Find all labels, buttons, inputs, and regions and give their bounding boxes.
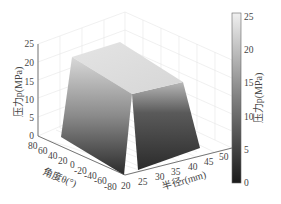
z-tick: 20 bbox=[25, 58, 35, 68]
theta-tick: -80 bbox=[104, 182, 117, 192]
r-tick: 25 bbox=[138, 177, 148, 187]
theta-tick: 40 bbox=[48, 151, 58, 161]
colorbar-tick: 25 bbox=[244, 12, 254, 22]
colorbar-tick: 20 bbox=[244, 45, 254, 55]
surface-plot: 0 5 10 15 20 25 压力p(MPa) 80 60 40 20 0 -… bbox=[0, 0, 281, 204]
theta-tick: 60 bbox=[38, 146, 48, 156]
r-tick: 50 bbox=[219, 152, 229, 162]
colorbar-tick: 5 bbox=[244, 145, 249, 155]
z-tick: 5 bbox=[29, 113, 34, 123]
theta-tick: 20 bbox=[58, 156, 68, 166]
chart-root: 0 5 10 15 20 25 压力p(MPa) 80 60 40 20 0 -… bbox=[0, 0, 281, 204]
z-axis-label: 压力p(MPa) bbox=[12, 67, 25, 118]
colorbar: 25 20 15 10 5 0 压力p(MPa) bbox=[232, 12, 265, 188]
r-axis-label: 半径r(mm) bbox=[160, 168, 207, 193]
theta-tick: 80 bbox=[28, 141, 38, 151]
z-tick: 15 bbox=[25, 77, 35, 87]
colorbar-tick: 0 bbox=[244, 178, 249, 188]
r-tick: 45 bbox=[204, 157, 214, 167]
colorbar-label: 压力p(MPa) bbox=[252, 73, 265, 124]
z-axis-ticks: 0 5 10 15 20 25 bbox=[25, 39, 35, 141]
z-tick: 0 bbox=[29, 131, 34, 141]
r-tick: 20 bbox=[121, 181, 131, 191]
z-tick: 25 bbox=[25, 39, 35, 49]
z-tick: 10 bbox=[25, 95, 35, 105]
